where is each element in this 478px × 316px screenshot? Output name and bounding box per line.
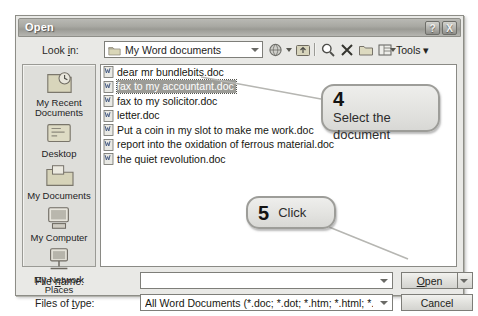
lookin-label: Look in: [42,44,79,56]
chevron-down-icon[interactable] [286,48,292,52]
chevron-down-icon[interactable] [380,301,388,305]
file-name: fax to my accountant.doc [117,80,236,93]
help-button[interactable]: ? [425,21,440,35]
lookin-row: Look in: My Word documents [18,39,461,61]
open-dialog: Open ? X Look in: My Word documents [15,15,464,296]
filetype-label: Files of type: [35,297,95,309]
recent-documents-icon [44,69,74,97]
place-my-recent-documents[interactable]: My Recent Documents [23,69,95,118]
dialog-titlebar[interactable]: Open ? X [18,18,461,37]
file-name: dear mr bundlebits.doc [117,66,226,79]
callout-number: 5 [258,203,269,223]
callout-step-4: 4 Select the document [321,84,440,132]
filename-label: File name: [35,275,84,287]
new-folder-icon[interactable] [358,42,374,58]
back-icon[interactable] [268,42,284,58]
filetype-combobox[interactable]: All Word Documents (*.doc; *.dot; *.htm;… [140,294,393,311]
my-documents-icon [44,162,74,190]
tools-label: Tools [396,44,421,56]
network-places-icon [44,246,74,274]
cancel-button[interactable]: Cancel [401,294,473,311]
lookin-combobox[interactable]: My Word documents [104,41,263,58]
up-one-level-icon[interactable] [295,42,311,58]
file-name: the quiet revolution.doc [117,153,228,166]
word-document-icon [103,110,115,122]
places-bar: My Recent Documents Desktop My Documents… [22,64,96,267]
place-label: My Computer [23,233,95,243]
word-document-icon [103,139,115,151]
word-document-icon [103,95,115,107]
word-document-icon [103,66,115,78]
delete-icon[interactable] [339,42,355,58]
callout-step-5: 5 Click [246,196,336,229]
open-button[interactable]: Open [401,272,458,289]
folder-icon [108,45,121,56]
chevron-down-icon [460,279,468,283]
filename-input[interactable] [140,272,393,289]
word-document-icon [103,124,115,136]
open-dropdown-button[interactable] [458,272,473,289]
desktop-icon [44,120,74,148]
search-web-icon[interactable] [320,42,336,58]
place-desktop[interactable]: Desktop [23,120,95,159]
place-label: My Recent Documents [23,98,95,118]
list-item[interactable]: the quiet revolution.doc [101,152,456,167]
callout-number: 4 [333,89,344,109]
place-label: Desktop [23,149,95,159]
place-my-network-places[interactable]: My Network Places [23,246,95,295]
list-item[interactable]: dear mr bundlebits.doc [101,65,456,80]
file-name: fax to my solicitor.doc [117,95,219,108]
place-label: My Documents [23,191,95,201]
chevron-down-icon[interactable] [380,279,388,283]
filetype-value: All Word Documents (*.doc; *.dot; *.htm;… [145,297,373,309]
callout-text: Click [278,204,306,221]
dialog-title: Open [25,21,54,33]
file-name: letter.doc [117,109,162,122]
my-computer-icon [44,204,74,232]
place-my-computer[interactable]: My Computer [23,204,95,243]
tools-menu[interactable]: Tools ▾ [396,44,429,56]
file-name: Put a coin in my slot to make me work.do… [117,124,316,137]
word-document-icon [103,81,115,93]
word-document-icon [103,153,115,165]
lookin-value: My Word documents [125,44,221,56]
close-button[interactable]: X [442,21,457,35]
chevron-down-icon[interactable] [251,48,259,52]
file-name: report into the oxidation of ferrous mat… [117,138,336,151]
callout-text: Select the document [333,109,428,143]
place-my-documents[interactable]: My Documents [23,162,95,201]
